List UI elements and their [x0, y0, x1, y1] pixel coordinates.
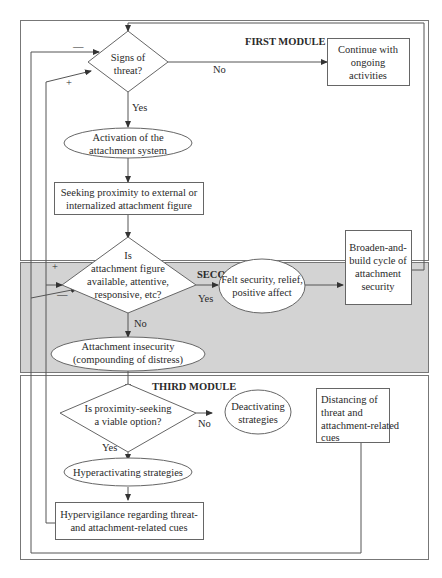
svg-text:attachment system: attachment system [89, 145, 167, 156]
svg-text:responsive, etc?: responsive, etc? [94, 289, 161, 300]
plus-top-label: + [66, 77, 72, 88]
svg-text:available, attentive,: available, attentive, [87, 276, 169, 287]
continue-ongoing-box: Continue with ongoing activities [328, 39, 410, 86]
svg-text:cues: cues [321, 432, 340, 443]
felt-security-ellipse: Felt security, relief, positive affect [219, 259, 305, 313]
plus-second-label: + [52, 261, 58, 272]
svg-text:Hyperactivating strategies: Hyperactivating strategies [73, 467, 183, 478]
svg-text:ongoing: ongoing [351, 57, 386, 68]
viable-no-label: No [198, 418, 211, 429]
third-module-title: THIRD MODULE [152, 381, 236, 392]
viable-yes-label: Yes [102, 442, 117, 453]
svg-text:and attachment-related cues: and attachment-related cues [70, 522, 187, 533]
svg-text:security: security [361, 281, 395, 292]
svg-text:build cycle of: build cycle of [349, 255, 407, 266]
attachment-flowchart: FIRST MODULE SECOND MODULE THIRD MODULE [0, 0, 442, 578]
svg-text:activities: activities [349, 70, 387, 81]
minus-second-label: — [56, 289, 68, 300]
svg-text:attachment-related: attachment-related [321, 420, 400, 431]
svg-text:Is proximity-seeking: Is proximity-seeking [84, 403, 172, 414]
hypervigilance-box: Hypervigilance regarding threat- and att… [56, 503, 204, 540]
svg-text:internalized attachment figure: internalized attachment figure [66, 200, 192, 211]
svg-text:Activation of the: Activation of the [92, 132, 163, 143]
svg-text:Attachment insecurity: Attachment insecurity [81, 341, 175, 352]
broaden-build-box: Broaden-and- build cycle of attachment s… [346, 231, 412, 305]
svg-text:Hypervigilance regarding threa: Hypervigilance regarding threat- [60, 509, 198, 520]
svg-text:a viable option?: a viable option? [94, 416, 161, 427]
activation-ellipse: Activation of the attachment system [64, 128, 192, 158]
available-yes-label: Yes [198, 293, 213, 304]
svg-text:threat?: threat? [114, 65, 143, 76]
svg-text:attachment figure: attachment figure [91, 263, 165, 274]
svg-text:attachment: attachment [355, 268, 401, 279]
first-module-title: FIRST MODULE [245, 36, 326, 47]
svg-text:Seeking proximity to external: Seeking proximity to external or [61, 187, 198, 198]
threat-yes-label: Yes [132, 102, 147, 113]
svg-text:Is: Is [124, 250, 132, 261]
svg-text:Continue with: Continue with [338, 44, 399, 55]
insecurity-ellipse: Attachment insecurity (compounding of di… [51, 337, 205, 371]
seeking-proximity-box: Seeking proximity to external or interna… [55, 183, 204, 215]
svg-text:positive affect: positive affect [232, 287, 292, 298]
svg-text:Felt security, relief,: Felt security, relief, [221, 274, 303, 285]
svg-text:Broaden-and-: Broaden-and- [349, 242, 407, 253]
svg-text:threat and: threat and [321, 407, 363, 418]
svg-text:Signs of: Signs of [111, 52, 146, 63]
hyperactivating-ellipse: Hyperactivating strategies [64, 458, 192, 486]
minus-top-label: — [72, 41, 84, 52]
svg-text:strategies: strategies [238, 414, 278, 425]
available-no-label: No [134, 318, 147, 329]
deactivating-ellipse: Deactivating strategies [225, 390, 291, 434]
threat-no-label: No [213, 64, 226, 75]
svg-text:Deactivating: Deactivating [231, 401, 285, 412]
distancing-box: Distancing of threat and attachment-rela… [317, 389, 400, 444]
svg-text:(compounding of distress): (compounding of distress) [73, 354, 184, 366]
svg-text:Distancing of: Distancing of [321, 394, 378, 405]
